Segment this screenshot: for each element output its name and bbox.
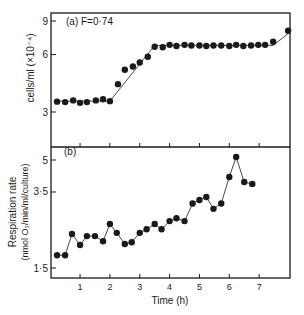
data-point [248, 42, 254, 48]
data-point [218, 200, 224, 206]
data-point [240, 43, 246, 49]
data-point [241, 179, 247, 185]
data-point [160, 44, 166, 50]
y-tick-label: 9 [42, 16, 48, 27]
data-point [203, 194, 209, 200]
fit-line [57, 33, 289, 101]
data-point [270, 39, 276, 45]
data-point [249, 181, 255, 187]
data-point [69, 231, 75, 237]
figure: (a) F=0·74 cells/ml (×10⁻⁴) 369 (b) Resp… [0, 0, 304, 315]
data-point [54, 252, 60, 258]
data-point [54, 98, 60, 104]
data-point [226, 174, 232, 180]
data-point [233, 42, 239, 48]
data-point [210, 42, 216, 48]
data-point [128, 239, 134, 245]
data-point [100, 96, 106, 102]
chart-svg: (a) F=0·74 cells/ml (×10⁻⁴) 369 (b) Resp… [0, 0, 304, 315]
data-point [233, 154, 239, 160]
panel-a-fit-line [57, 33, 289, 101]
data-point [262, 42, 268, 48]
y-tick-label: 6 [42, 49, 48, 60]
data-point [210, 206, 216, 212]
y-tick-label: 5 [42, 155, 48, 166]
panel-b-label: (b) [64, 146, 76, 157]
panel-a-data-points [54, 28, 291, 107]
x-tick-label: 1 [78, 282, 83, 292]
x-tick-label: 4 [167, 282, 172, 292]
data-point [77, 100, 83, 106]
panel-a-label: (a) F=0·74 [66, 16, 113, 27]
x-tick-label: 5 [197, 282, 202, 292]
data-point [100, 238, 106, 244]
panel-b-y-axis-label-line1: Respiration rate [7, 176, 18, 247]
panel-b: (b) Respiration rate (nmol O₂/min/ml/cul… [7, 146, 255, 274]
data-point [226, 43, 232, 49]
data-point [181, 42, 187, 48]
y-tick-label: 1·5 [34, 263, 49, 274]
data-point [196, 197, 202, 203]
panel-b-y-ticks: 1·53·55 [34, 155, 56, 274]
x-tick-label: 7 [257, 282, 262, 292]
panel-b-y-axis-label-line2: (nmol O₂/min/ml/culture) [20, 163, 30, 260]
x-tick-label: 6 [227, 282, 232, 292]
data-point [151, 43, 157, 49]
data-point [151, 221, 157, 227]
data-point [143, 226, 149, 232]
data-point [203, 43, 209, 49]
data-point [166, 42, 172, 48]
y-tick-label: 3 [42, 107, 48, 118]
panel-b-data-points [54, 154, 256, 259]
data-point [107, 98, 113, 104]
data-point [173, 215, 179, 221]
x-tick-label: 3 [137, 282, 142, 292]
data-point [122, 66, 128, 72]
data-point [114, 230, 120, 236]
x-axis-label: Time (h) [152, 295, 189, 306]
data-point [137, 230, 143, 236]
data-point [92, 233, 98, 239]
data-point [158, 226, 164, 232]
panel-a: (a) F=0·74 cells/ml (×10⁻⁴) 369 [25, 16, 291, 118]
x-tick-label: 2 [107, 282, 112, 292]
panel-a-y-axis-label: cells/ml (×10⁻⁴) [25, 33, 36, 102]
data-point [62, 252, 68, 258]
data-point [196, 42, 202, 48]
data-point [62, 99, 68, 105]
data-point [189, 200, 195, 206]
data-point [70, 97, 76, 103]
x-axis-ticks: 1234567 [78, 143, 262, 292]
data-point [218, 42, 224, 48]
data-point [255, 42, 261, 48]
data-point [137, 59, 143, 65]
data-point [145, 53, 151, 59]
data-point [285, 28, 291, 34]
data-point [77, 242, 83, 248]
data-point [130, 63, 136, 69]
data-point [84, 99, 90, 105]
data-point [115, 81, 121, 87]
data-point [181, 218, 187, 224]
data-point [188, 42, 194, 48]
data-point [166, 218, 172, 224]
data-point [107, 221, 113, 227]
data-point [122, 241, 128, 247]
data-point [84, 233, 90, 239]
data-point [93, 97, 99, 103]
y-tick-label: 3·5 [34, 186, 49, 197]
data-point [173, 43, 179, 49]
